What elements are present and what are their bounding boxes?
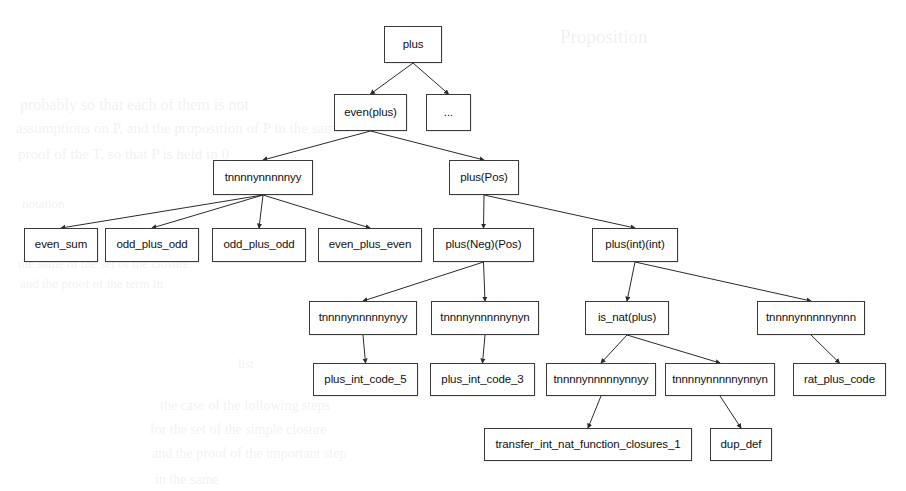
bleed-text: for the set of the simple closure [150, 422, 327, 438]
node-label: odd_plus_odd [113, 239, 190, 251]
node-label: plus(int)(int) [602, 239, 667, 251]
bleed-text: list [238, 356, 254, 372]
node-label: plus(Pos) [457, 172, 511, 184]
node-label: tnnnnynnnnnynyy [316, 312, 411, 324]
node-odd_plus_odd_1[interactable]: odd_plus_odd [105, 228, 199, 262]
edge-t_f-to-dup_def [720, 396, 741, 428]
node-label: even_sum [32, 239, 90, 251]
node-label: transfer_int_nat_function_closures_1 [493, 439, 684, 451]
bleed-text: and the proof of the term in [20, 276, 163, 292]
node-t_a[interactable]: tnnnnynnnnnyy [213, 160, 313, 195]
node-label: plus(Neg)(Pos) [443, 239, 525, 251]
node-t_b[interactable]: tnnnnynnnnnynyy [309, 301, 417, 335]
node-rat_plus_code[interactable]: rat_plus_code [793, 363, 886, 396]
edge-plus_pos-to-plus_neg_pos [484, 195, 485, 228]
node-even_plus[interactable]: even(plus) [334, 94, 407, 131]
node-label: even(plus) [341, 107, 400, 119]
bleed-text: Proposition [560, 26, 648, 48]
node-label: rat_plus_code [801, 374, 878, 386]
node-plus_int_int[interactable]: plus(int)(int) [592, 228, 678, 262]
node-label: tnnnnynnnnnynnyy [551, 374, 652, 386]
node-label: odd_plus_odd [220, 239, 297, 251]
edge-plus_int_int-to-is_nat_plus [627, 262, 635, 301]
diagram-canvas: Propositionprobably so that each of them… [0, 0, 906, 491]
node-label: is_nat(plus) [595, 312, 659, 324]
node-label: dup_def [718, 439, 765, 451]
edge-t_a-to-odd_plus_odd_2 [259, 195, 263, 228]
node-transfer[interactable]: transfer_int_nat_function_closures_1 [484, 428, 692, 461]
edge-t_b-to-plus_int_code_5 [363, 335, 366, 363]
edge-even_plus-to-plus_pos [371, 131, 485, 160]
bleed-text: probably so that each of them is not [20, 96, 249, 114]
edge-t_a-to-even_plus_even [263, 195, 370, 228]
edge-plus_neg_pos-to-t_b [363, 262, 484, 301]
node-is_nat_plus[interactable]: is_nat(plus) [585, 301, 669, 335]
edge-t_c-to-plus_int_code_3 [483, 335, 486, 363]
node-odd_plus_odd_2[interactable]: odd_plus_odd [212, 228, 306, 262]
edge-plus-to-even_plus [371, 63, 414, 94]
bleed-text: notation [22, 196, 65, 212]
edge-even_plus-to-t_a [263, 131, 371, 160]
bleed-text: proof of the T, so that P is held in 0 [18, 146, 229, 163]
edge-is_nat_plus-to-t_e [601, 335, 627, 363]
bleed-text: in the same [155, 472, 219, 488]
node-label: plus_int_code_5 [321, 374, 409, 386]
node-ellipsis[interactable]: ... [426, 94, 471, 131]
node-plus_int_code_3[interactable]: plus_int_code_3 [430, 363, 535, 396]
node-dup_def[interactable]: dup_def [710, 428, 772, 461]
node-plus_int_code_5[interactable]: plus_int_code_5 [313, 363, 418, 396]
node-label: tnnnnynnnnnynyn [437, 312, 532, 324]
node-t_d[interactable]: tnnnnynnnnnynnn [757, 301, 865, 335]
node-even_plus_even[interactable]: even_plus_even [318, 228, 422, 262]
node-even_sum[interactable]: even_sum [24, 228, 98, 262]
edge-t_d-to-rat_plus_code [811, 335, 840, 363]
node-label: plus [400, 39, 427, 51]
edge-t_a-to-even_sum [61, 195, 263, 228]
node-plus_neg_pos[interactable]: plus(Neg)(Pos) [433, 228, 534, 262]
edge-plus_pos-to-plus_int_int [484, 195, 635, 228]
node-label: tnnnnynnnnnynnn [763, 312, 859, 324]
node-label: plus_int_code_3 [438, 374, 526, 386]
node-t_c[interactable]: tnnnnynnnnnynyn [431, 301, 539, 335]
bleed-text: the case of the following steps [160, 398, 330, 414]
node-label: even_plus_even [326, 239, 414, 251]
node-t_e[interactable]: tnnnnynnnnnynnyy [546, 363, 656, 396]
node-label: ... [441, 107, 456, 119]
node-plus[interactable]: plus [384, 26, 442, 63]
edge-plus_neg_pos-to-t_c [484, 262, 486, 301]
edge-t_e-to-transfer [588, 396, 601, 428]
edge-plus_int_int-to-t_d [635, 262, 811, 301]
node-t_f[interactable]: tnnnnynnnnnynnyn [665, 363, 775, 396]
bleed-text: and the proof of the important step [152, 446, 346, 462]
node-label: tnnnnynnnnnyy [222, 172, 305, 184]
edge-plus-to-ellipsis [413, 63, 449, 94]
edge-is_nat_plus-to-t_f [627, 335, 720, 363]
bleed-text: assumptions on P, and the proposition of… [16, 120, 343, 137]
edge-t_a-to-odd_plus_odd_1 [152, 195, 263, 228]
node-plus_pos[interactable]: plus(Pos) [449, 160, 519, 195]
node-label: tnnnnynnnnnynnyn [669, 374, 771, 386]
